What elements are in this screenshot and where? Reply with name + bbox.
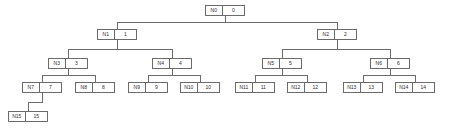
tree-edge (225, 16, 337, 29)
node-value-label: 13 (361, 83, 382, 92)
tree-node-n3[interactable]: N33 (48, 58, 88, 69)
node-name-label: N0 (206, 6, 223, 15)
node-value-label: 10 (198, 83, 219, 92)
tree-node-n12[interactable]: N1212 (287, 82, 327, 93)
tree-node-n1[interactable]: N11 (97, 29, 137, 40)
tree-edge (172, 69, 200, 82)
tree-edge (148, 69, 172, 82)
node-name-label: N6 (371, 59, 388, 68)
tree-edge (42, 69, 68, 82)
node-value-label: 15 (26, 112, 47, 121)
tree-edge (363, 69, 390, 82)
node-value-label: 5 (280, 59, 301, 68)
tree-edge (28, 93, 42, 111)
tree-edge (337, 40, 390, 58)
tree-node-n8[interactable]: N88 (75, 82, 115, 93)
tree-edge (117, 40, 172, 58)
node-value-label: 2 (335, 30, 356, 39)
tree-node-n6[interactable]: N66 (370, 58, 410, 69)
binary-tree-diagram: N00N11N22N33N44N55N66N77N88N99N1010N1111… (0, 0, 455, 132)
tree-node-n9[interactable]: N99 (128, 82, 168, 93)
tree-node-n0[interactable]: N00 (205, 5, 245, 16)
node-name-label: N10 (181, 83, 198, 92)
node-name-label: N4 (153, 59, 170, 68)
tree-edge (117, 16, 225, 29)
node-value-label: 4 (170, 59, 191, 68)
tree-edge (68, 69, 95, 82)
node-name-label: N7 (23, 83, 40, 92)
node-value-label: 14 (413, 83, 434, 92)
tree-edge (68, 40, 117, 58)
node-name-label: N15 (9, 112, 26, 121)
tree-node-n10[interactable]: N1010 (180, 82, 220, 93)
node-name-label: N12 (288, 83, 305, 92)
node-name-label: N11 (236, 83, 253, 92)
tree-node-n2[interactable]: N22 (317, 29, 357, 40)
tree-node-n15[interactable]: N1515 (8, 111, 48, 122)
node-value-label: 6 (388, 59, 409, 68)
node-value-label: 7 (40, 83, 61, 92)
tree-node-n5[interactable]: N55 (262, 58, 302, 69)
node-value-label: 1 (115, 30, 136, 39)
node-value-label: 0 (223, 6, 244, 15)
tree-node-n11[interactable]: N1111 (235, 82, 275, 93)
node-value-label: 8 (93, 83, 114, 92)
node-name-label: N8 (76, 83, 93, 92)
node-value-label: 3 (66, 59, 87, 68)
tree-edge (255, 69, 282, 82)
tree-node-n13[interactable]: N1313 (343, 82, 383, 93)
node-value-label: 12 (305, 83, 326, 92)
node-name-label: N9 (129, 83, 146, 92)
tree-edge (282, 40, 337, 58)
node-name-label: N14 (396, 83, 413, 92)
node-name-label: N13 (344, 83, 361, 92)
node-name-label: N1 (98, 30, 115, 39)
node-value-label: 11 (253, 83, 274, 92)
tree-node-n14[interactable]: N1414 (395, 82, 435, 93)
node-value-label: 9 (146, 83, 167, 92)
node-name-label: N5 (263, 59, 280, 68)
tree-node-n4[interactable]: N44 (152, 58, 192, 69)
tree-edge (282, 69, 307, 82)
node-name-label: N2 (318, 30, 335, 39)
tree-node-n7[interactable]: N77 (22, 82, 62, 93)
node-name-label: N3 (49, 59, 66, 68)
tree-edge (390, 69, 415, 82)
